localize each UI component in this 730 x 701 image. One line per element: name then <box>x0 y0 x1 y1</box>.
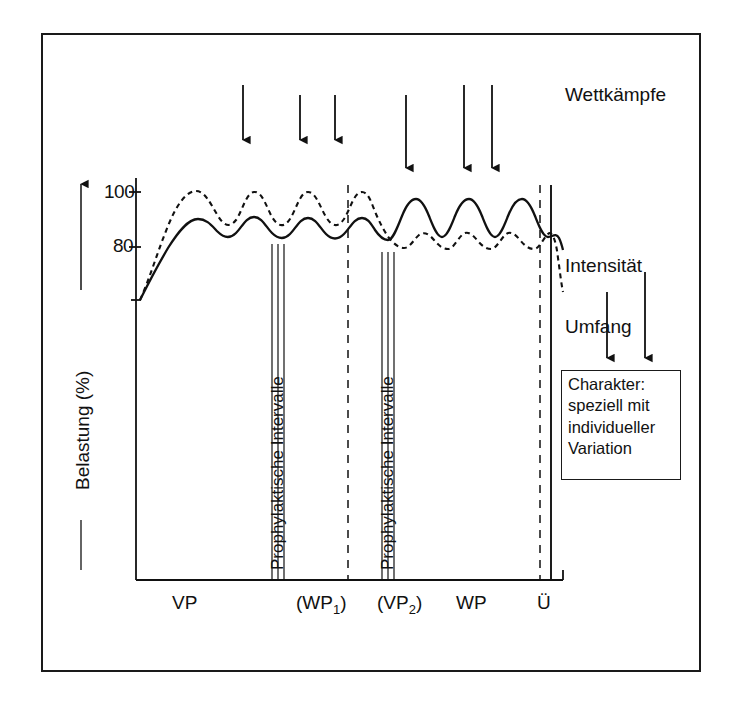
volume-label: Umfang <box>565 316 632 338</box>
character-box-line-1: Charakter: <box>568 374 686 395</box>
series-intensitaet-solid <box>140 199 563 300</box>
x-category-wp: WP <box>456 592 487 614</box>
prophylactic-interval-label-2: Prophylaktische Intervalle <box>378 376 398 570</box>
prophylactic-interval-label-1: Prophylaktische Intervalle <box>268 376 288 570</box>
x-category-vp: VP <box>172 592 197 614</box>
character-box-text: Charakter: speziell mit individueller Va… <box>568 374 686 460</box>
character-box-line-4: Variation <box>568 438 686 459</box>
y-axis-label: Belastung (%) <box>72 371 94 490</box>
x-category-wp1-close: ) <box>340 592 346 613</box>
competitions-label: Wettkämpfe <box>565 84 666 106</box>
character-box-line-2: speziell mit <box>568 395 686 416</box>
y-tick-label-80: 80 <box>113 235 133 257</box>
x-category-ue: Ü <box>537 592 551 614</box>
x-category-vp2-open: (VP <box>377 592 409 613</box>
x-category-wp1: (WP1) <box>296 592 347 617</box>
phase-boundary-lines <box>348 185 540 580</box>
series-umfang-dashed <box>140 191 563 300</box>
y-tick-label-100: 100 <box>104 181 134 203</box>
intensity-label: Intensität <box>565 255 642 277</box>
x-category-vp2-sub: 2 <box>409 602 416 617</box>
figure-canvas: 100 80 Belastung (%) VP (WP1) (VP2) WP Ü… <box>0 0 730 701</box>
x-category-vp2: (VP2) <box>377 592 422 617</box>
legend-pointer-arrows <box>607 272 645 358</box>
plot-axes <box>129 178 563 580</box>
competition-arrows <box>243 85 492 168</box>
x-category-wp1-open: (WP <box>296 592 333 613</box>
character-box-line-3: individueller <box>568 417 686 438</box>
x-category-vp2-close: ) <box>416 592 422 613</box>
